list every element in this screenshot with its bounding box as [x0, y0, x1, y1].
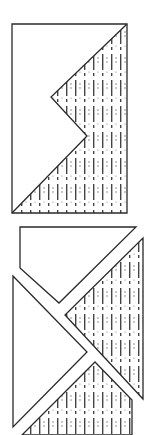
bottom-figure: [13, 227, 143, 435]
top-figure: [12, 24, 127, 213]
top-hatched-region: [12, 24, 127, 213]
bottom-piece-hatch: [22, 362, 132, 435]
geometric-dissection-diagram: [0, 0, 154, 435]
